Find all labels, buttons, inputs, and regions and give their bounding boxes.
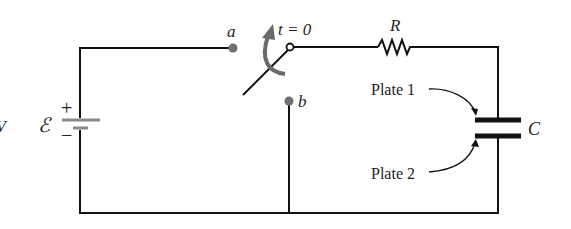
switch-pivot: [287, 44, 294, 51]
resistor-label: R: [389, 16, 401, 35]
plate-1-arrowhead-icon: [471, 108, 478, 116]
arrowhead-icon: [262, 24, 275, 40]
battery-plus: +: [61, 97, 72, 119]
plate-1-arrow: [429, 89, 475, 112]
terminal-a-dot: [229, 44, 238, 53]
plate-2-label: Plate 2: [371, 165, 415, 182]
capacitor: C Plate 1 Plate 2: [371, 81, 541, 182]
rc-circuit-diagram: + − ℰ V a b t = 0 R C Plate 1 Plate 2: [0, 0, 571, 229]
emf-label: ℰ: [38, 114, 52, 136]
capacitor-label: C: [528, 119, 541, 139]
battery: + − ℰ V: [0, 97, 100, 146]
battery-minus: −: [61, 124, 72, 146]
plate-1-label: Plate 1: [371, 81, 415, 98]
terminal-a-label: a: [227, 22, 236, 41]
resistor-zigzag: [378, 40, 412, 54]
emf-fragment: V: [0, 118, 8, 135]
terminal-b-label: b: [298, 92, 307, 111]
terminal-b-dot: [285, 97, 294, 106]
wires: [79, 46, 499, 214]
switch-time-label: t = 0: [278, 20, 312, 39]
resistor: R: [378, 16, 412, 54]
plate-2-arrowhead-icon: [471, 139, 479, 147]
switch: a b t = 0: [227, 20, 312, 111]
plate-2-arrow: [429, 143, 475, 172]
